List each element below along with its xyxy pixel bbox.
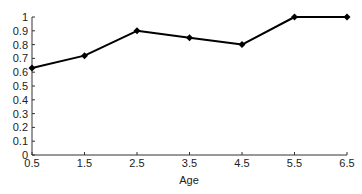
y-axis: 00.10.20.30.40.50.60.70.80.91: [13, 11, 35, 161]
diamond-marker: [291, 14, 298, 21]
diamond-marker: [81, 52, 88, 59]
line-chart: 00.10.20.30.40.50.60.70.80.91 0.51.52.53…: [0, 0, 362, 194]
diamond-marker: [239, 41, 246, 48]
y-tick-label: 0.5: [13, 80, 28, 92]
y-tick-label: 0.4: [13, 94, 28, 106]
x-axis: 0.51.52.53.54.55.56.5: [24, 152, 354, 169]
x-tick-label: 0.5: [24, 157, 39, 169]
x-tick-label: 5.5: [287, 157, 302, 169]
diamond-marker: [344, 14, 351, 21]
diamond-marker: [186, 34, 193, 41]
y-tick-label: 0.9: [13, 25, 28, 37]
x-tick-label: 4.5: [234, 157, 249, 169]
y-tick-label: 0.3: [13, 108, 28, 120]
diamond-marker: [134, 27, 141, 34]
data-series: [29, 14, 351, 72]
y-tick-label: 0.2: [13, 121, 28, 133]
x-tick-label: 6.5: [339, 157, 354, 169]
y-tick-label: 0.6: [13, 66, 28, 78]
y-tick-label: 0.8: [13, 39, 28, 51]
x-tick-label: 3.5: [182, 157, 197, 169]
x-tick-label: 1.5: [77, 157, 92, 169]
y-tick-label: 0.7: [13, 52, 28, 64]
x-axis-title: Age: [179, 174, 199, 186]
y-tick-label: 1: [22, 11, 28, 23]
x-tick-label: 2.5: [129, 157, 144, 169]
diamond-marker: [29, 65, 36, 72]
y-tick-label: 0.1: [13, 135, 28, 147]
